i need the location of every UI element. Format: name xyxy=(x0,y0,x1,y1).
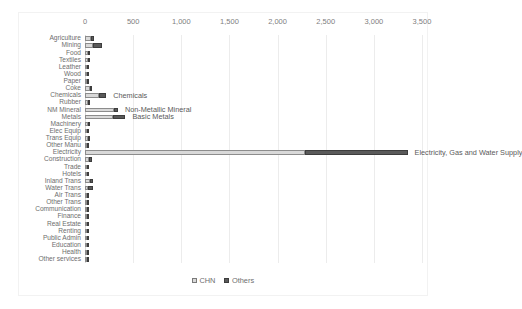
bar-segment-others[interactable] xyxy=(88,122,90,126)
bar-segment-others[interactable] xyxy=(87,250,89,254)
bar-row[interactable] xyxy=(85,165,422,169)
category-label: Construction xyxy=(44,156,81,163)
bar-row[interactable] xyxy=(85,58,422,62)
category-label: Mining xyxy=(62,42,81,49)
bar-segment-others[interactable] xyxy=(87,72,89,76)
bar-row[interactable] xyxy=(85,193,422,197)
x-tick-label: 2,000 xyxy=(268,17,287,26)
bar-segment-others[interactable] xyxy=(87,129,89,133)
legend-item-others[interactable]: Others xyxy=(224,276,254,285)
category-label: Finance xyxy=(58,213,81,220)
bar-row[interactable] xyxy=(85,150,422,154)
bar-segment-chn[interactable] xyxy=(85,115,113,119)
bar-segment-chn[interactable] xyxy=(85,43,93,47)
bar-row[interactable] xyxy=(85,36,422,40)
bar-row[interactable] xyxy=(85,179,422,183)
bar-segment-others[interactable] xyxy=(87,214,89,218)
bar-segment-others[interactable] xyxy=(88,100,90,104)
bar-segment-others[interactable] xyxy=(114,108,118,112)
legend-label: Others xyxy=(232,276,254,285)
plot-area: ChemicalsNon-Metallic MineralBasic Metal… xyxy=(85,35,422,263)
bar-segment-others[interactable] xyxy=(87,222,89,226)
bar-segment-others[interactable] xyxy=(87,65,89,69)
bar-row[interactable] xyxy=(85,100,422,104)
bar-segment-others[interactable] xyxy=(99,93,106,97)
bar-segment-others[interactable] xyxy=(87,229,89,233)
x-tick-label: 3,500 xyxy=(413,17,432,26)
bar-segment-chn[interactable] xyxy=(85,150,305,154)
bar-row[interactable] xyxy=(85,86,422,90)
bar-segment-others[interactable] xyxy=(91,36,94,40)
bar-row[interactable] xyxy=(85,222,422,226)
bar-segment-others[interactable] xyxy=(87,165,89,169)
bar-segment-chn[interactable] xyxy=(85,108,114,112)
bar-segment-others[interactable] xyxy=(88,186,93,190)
bar-segment-others[interactable] xyxy=(90,86,92,90)
bar-row[interactable] xyxy=(85,136,422,140)
chart-legend: CHNOthers xyxy=(19,276,427,285)
category-label: Rubber xyxy=(59,99,81,106)
bar-series-group xyxy=(85,35,422,263)
legend-label: CHN xyxy=(199,276,215,285)
bar-row[interactable] xyxy=(85,250,422,254)
bar-segment-others[interactable] xyxy=(87,243,89,247)
bar-row[interactable] xyxy=(85,43,422,47)
bar-row[interactable] xyxy=(85,51,422,55)
bar-row[interactable] xyxy=(85,157,422,161)
legend-item-chn[interactable]: CHN xyxy=(192,276,216,285)
bar-row[interactable] xyxy=(85,207,422,211)
bar-segment-others[interactable] xyxy=(305,150,408,154)
bar-segment-others[interactable] xyxy=(87,172,89,176)
bar-row[interactable] xyxy=(85,243,422,247)
x-axis-tick-labels: 05001,0001,5002,0002,5003,0003,500 xyxy=(19,13,427,35)
bar-segment-others[interactable] xyxy=(113,115,126,119)
bar-segment-others[interactable] xyxy=(87,207,89,211)
bar-row[interactable] xyxy=(85,236,422,240)
bar-segment-others[interactable] xyxy=(88,51,90,55)
bar-segment-others[interactable] xyxy=(87,236,89,240)
bar-row[interactable] xyxy=(85,214,422,218)
bar-segment-others[interactable] xyxy=(90,179,93,183)
bar-segment-others[interactable] xyxy=(87,193,89,197)
bar-row[interactable] xyxy=(85,79,422,83)
bar-segment-others[interactable] xyxy=(88,58,91,62)
bar-annotation: Basic Metals xyxy=(132,113,173,120)
x-tick-label: 0 xyxy=(83,17,87,26)
chart-container: 05001,0001,5002,0002,5003,0003,500 Chemi… xyxy=(18,12,428,296)
bar-row[interactable] xyxy=(85,65,422,69)
legend-swatch-icon xyxy=(192,278,197,283)
x-tick-label: 1,000 xyxy=(172,17,191,26)
x-tick-label: 1,500 xyxy=(220,17,239,26)
bar-segment-others[interactable] xyxy=(87,257,89,261)
legend-swatch-icon xyxy=(224,278,229,283)
bar-row[interactable] xyxy=(85,72,422,76)
x-tick-label: 3,000 xyxy=(364,17,383,26)
bar-segment-others[interactable] xyxy=(88,136,90,140)
x-tick-label: 2,500 xyxy=(316,17,335,26)
bar-annotation: Chemicals xyxy=(113,92,147,99)
bar-segment-chn[interactable] xyxy=(85,93,99,97)
bar-segment-others[interactable] xyxy=(87,143,89,147)
bar-row[interactable] xyxy=(85,172,422,176)
bar-segment-others[interactable] xyxy=(89,157,92,161)
x-tick-label: 500 xyxy=(127,17,140,26)
bar-row[interactable] xyxy=(85,122,422,126)
bar-segment-others[interactable] xyxy=(87,79,89,83)
bar-segment-others[interactable] xyxy=(87,200,89,204)
bar-segment-others[interactable] xyxy=(93,43,102,47)
bar-row[interactable] xyxy=(85,143,422,147)
y-axis-category-labels: AgricultureMiningFoodTextilesLeatherWood… xyxy=(19,35,83,263)
category-label: Other services xyxy=(38,256,81,263)
bar-row[interactable] xyxy=(85,200,422,204)
bar-row[interactable] xyxy=(85,186,422,190)
bar-row[interactable] xyxy=(85,129,422,133)
bar-annotation: Electricity, Gas and Water Supply xyxy=(415,149,522,156)
bar-row[interactable] xyxy=(85,257,422,261)
bar-row[interactable] xyxy=(85,229,422,233)
